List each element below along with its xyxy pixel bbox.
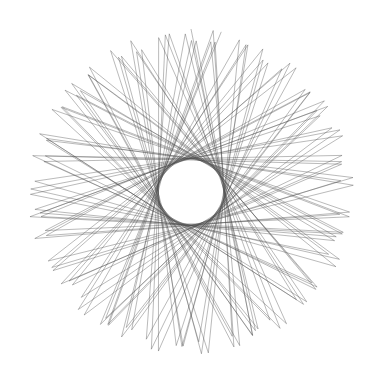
spirograph-figure — [0, 0, 373, 380]
spirograph-chord — [199, 45, 248, 342]
spirograph-chord — [146, 68, 296, 339]
spirograph-chord — [30, 106, 328, 216]
spirograph-chord — [46, 140, 306, 301]
spirograph-lines — [30, 29, 353, 354]
spirograph-canvas — [0, 0, 373, 380]
spirograph-chord — [76, 95, 255, 330]
spirograph-chord — [137, 52, 182, 347]
spirograph-chord — [35, 93, 310, 239]
